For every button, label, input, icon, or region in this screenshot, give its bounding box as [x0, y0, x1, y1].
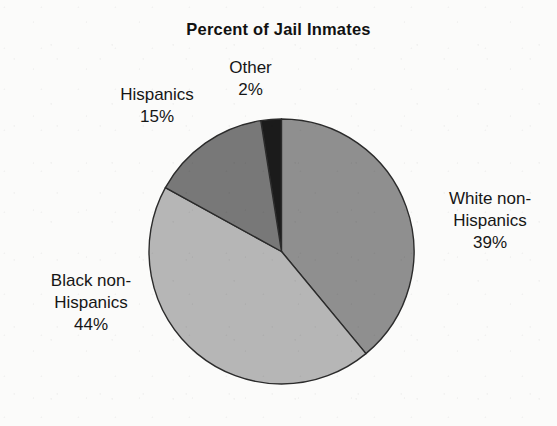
slice-label-white-name-line2: Hispanics [425, 210, 555, 232]
slice-label-black-name-line1: Black non- [16, 270, 166, 292]
pie-svg [147, 117, 416, 386]
slice-label-white-name-line1: White non- [425, 188, 555, 210]
chart-title: Percent of Jail Inmates [0, 20, 557, 39]
slice-label-hispanics: Hispanics 15% [92, 84, 222, 128]
slice-label-hispanics-name: Hispanics [92, 84, 222, 106]
pie-graphic [147, 117, 416, 386]
slice-label-black-name-line2: Hispanics [16, 292, 166, 314]
slice-label-other-name: Other [193, 57, 308, 79]
slice-label-black-non-hispanics: Black non- Hispanics 44% [16, 270, 166, 336]
slice-label-hispanics-value: 15% [92, 106, 222, 128]
slice-label-black-value: 44% [16, 314, 166, 336]
slice-label-white-non-hispanics: White non- Hispanics 39% [425, 188, 555, 254]
pie-chart-figure: Percent of Jail Inmates Other 2% Hispani… [0, 0, 557, 426]
slice-label-white-value: 39% [425, 232, 555, 254]
pie-slices [149, 119, 414, 384]
